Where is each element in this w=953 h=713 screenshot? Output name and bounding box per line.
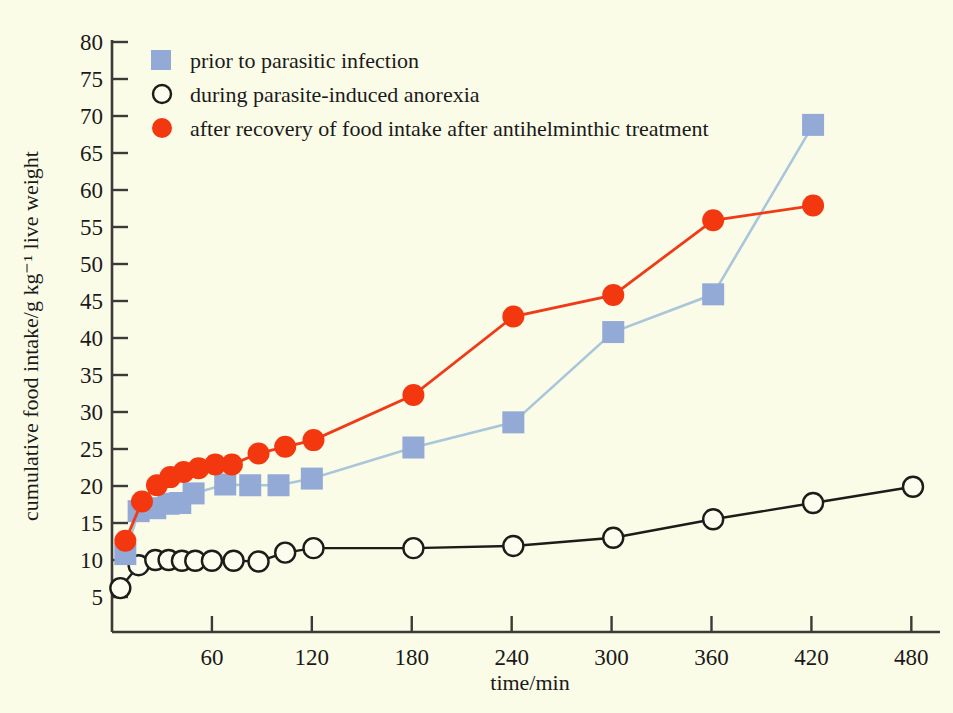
data-point-circle [114, 530, 136, 552]
y-tick-label: 60 [80, 178, 103, 203]
y-tick-label: 50 [80, 252, 103, 277]
y-tick-label: 80 [80, 30, 103, 55]
legend-marker-square [151, 50, 171, 70]
x-tick-label: 420 [794, 645, 829, 670]
data-point-open-circle [903, 477, 923, 497]
y-tick-label: 70 [80, 104, 103, 129]
legend-label: during parasite-induced anorexia [190, 82, 480, 107]
y-tick-label: 30 [80, 400, 103, 425]
x-tick-label: 120 [295, 645, 330, 670]
x-axis-label: time/min [490, 670, 569, 695]
y-tick-label: 35 [80, 363, 103, 388]
data-point-square [268, 474, 290, 496]
data-point-open-circle [303, 538, 323, 558]
legend-marker-open-circle [153, 85, 171, 103]
y-tick-label: 65 [80, 141, 103, 166]
data-point-open-circle [224, 551, 244, 571]
x-tick-label: 180 [395, 645, 430, 670]
data-point-open-circle [110, 578, 130, 598]
y-axis-label: cumulative food intake/g kg⁻¹ live weigh… [18, 151, 43, 521]
legend-marker-filled-circle [152, 118, 172, 138]
y-tick-label: 75 [80, 67, 103, 92]
data-point-open-circle [803, 493, 823, 513]
data-point-open-circle [503, 536, 523, 556]
y-tick-label: 10 [80, 548, 103, 573]
x-tick-label: 240 [494, 645, 529, 670]
y-tick-label: 25 [80, 437, 103, 462]
data-point-square [402, 437, 424, 459]
data-point-square [239, 474, 261, 496]
data-point-open-circle [703, 509, 723, 529]
data-point-circle [221, 454, 243, 476]
data-point-open-circle [202, 551, 222, 571]
data-point-circle [602, 284, 624, 306]
data-point-open-circle [249, 551, 269, 571]
y-tick-label: 5 [92, 585, 104, 610]
chart-figure: 5101520253035404550556065707580 60120180… [0, 0, 953, 713]
data-point-square [183, 482, 205, 504]
legend-label: prior to parasitic infection [190, 48, 419, 73]
y-tick-label: 20 [80, 474, 103, 499]
data-point-circle [302, 429, 324, 451]
legend-label: after recovery of food intake after anti… [190, 116, 709, 141]
data-point-square [301, 468, 323, 490]
x-tick-label: 360 [694, 645, 729, 670]
data-point-circle [131, 491, 153, 513]
data-point-open-circle [403, 538, 423, 558]
data-point-square [702, 283, 724, 305]
data-point-circle [802, 195, 824, 217]
data-point-circle [274, 436, 296, 458]
x-tick-label: 300 [594, 645, 629, 670]
data-point-square [602, 321, 624, 343]
data-point-square [214, 474, 236, 496]
data-point-square [502, 411, 524, 433]
x-tick-label: 480 [894, 645, 929, 670]
data-point-square [802, 114, 824, 136]
x-tick-label: 60 [200, 645, 223, 670]
data-point-open-circle [603, 528, 623, 548]
data-point-open-circle [275, 543, 295, 563]
y-tick-label: 45 [80, 289, 103, 314]
data-point-circle [702, 209, 724, 231]
data-point-circle [402, 384, 424, 406]
y-tick-label: 15 [80, 511, 103, 536]
y-tick-label: 40 [80, 326, 103, 351]
data-point-circle [502, 306, 524, 328]
data-point-circle [248, 442, 270, 464]
y-tick-label: 55 [80, 215, 103, 240]
